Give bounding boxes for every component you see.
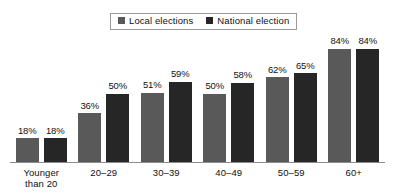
bar-wrap: 50% xyxy=(106,36,129,163)
bar-value-label: 59% xyxy=(171,69,190,79)
bar-national xyxy=(44,138,67,163)
bar-group: 36%50% xyxy=(73,36,136,163)
bar-group: 84%84% xyxy=(323,36,386,163)
bar-national xyxy=(356,49,379,164)
bar-value-label: 18% xyxy=(46,126,65,136)
plot-area: 18%18%36%50%51%59%50%58%62%65%84%84% xyxy=(10,36,385,163)
x-axis-label: 20–29 xyxy=(73,167,136,178)
bar-value-label: 18% xyxy=(18,126,37,136)
bar-wrap: 84% xyxy=(328,36,351,163)
x-axis-label: Youngerthan 20 xyxy=(10,167,73,189)
legend-item-local-elections: Local elections xyxy=(118,16,193,26)
bar-chart: Local elections National election 18%18%… xyxy=(0,0,395,196)
legend-swatch-icon-national xyxy=(206,17,213,24)
bar-value-label: 50% xyxy=(108,81,127,91)
bar-wrap: 50% xyxy=(203,36,226,163)
bar-national xyxy=(106,94,129,163)
x-axis-label: 60+ xyxy=(323,167,386,178)
bar-national xyxy=(294,73,317,163)
bar-national xyxy=(231,83,254,163)
bar-wrap: 62% xyxy=(266,36,289,163)
bar-value-label: 50% xyxy=(205,81,224,91)
bar-local xyxy=(328,49,351,164)
bar-local xyxy=(203,94,226,163)
bar-value-label: 65% xyxy=(296,61,315,71)
bar-wrap: 58% xyxy=(231,36,254,163)
bar-value-label: 51% xyxy=(143,80,162,90)
bar-value-label: 84% xyxy=(330,36,349,46)
bar-wrap: 51% xyxy=(141,36,164,163)
bar-value-label: 62% xyxy=(268,65,287,75)
bar-group: 62%65% xyxy=(260,36,323,163)
legend-label-local: Local elections xyxy=(129,16,193,26)
bar-local xyxy=(78,113,101,163)
x-axis-label: 40–49 xyxy=(198,167,261,178)
bar-wrap: 18% xyxy=(44,36,67,163)
bar-local xyxy=(141,93,164,163)
x-axis-line xyxy=(10,162,385,163)
bar-group: 50%58% xyxy=(198,36,261,163)
x-axis-label: 50–59 xyxy=(260,167,323,178)
bar-group: 18%18% xyxy=(10,36,73,163)
legend-item-national-election: National election xyxy=(206,16,289,26)
bar-wrap: 65% xyxy=(294,36,317,163)
legend-label-national: National election xyxy=(217,16,289,26)
bar-value-label: 36% xyxy=(80,101,99,111)
bar-national xyxy=(169,82,192,163)
bar-value-label: 58% xyxy=(233,70,252,80)
bar-wrap: 59% xyxy=(169,36,192,163)
chart-legend: Local elections National election xyxy=(110,13,297,30)
bar-local xyxy=(16,138,39,163)
bar-wrap: 18% xyxy=(16,36,39,163)
x-axis-label: 30–39 xyxy=(135,167,198,178)
bar-value-label: 84% xyxy=(358,36,377,46)
bar-group: 51%59% xyxy=(135,36,198,163)
bar-local xyxy=(266,77,289,163)
bar-wrap: 84% xyxy=(356,36,379,163)
bar-wrap: 36% xyxy=(78,36,101,163)
legend-swatch-icon-local xyxy=(118,17,125,24)
